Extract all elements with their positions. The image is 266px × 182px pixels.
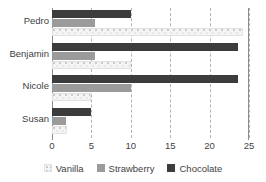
bar-group [52,75,249,105]
bar-vanilla-pedro [52,28,243,36]
legend-item-vanilla[interactable]: Vanilla [44,163,84,174]
bar-chocolate-susan [52,108,91,116]
legend-label: Chocolate [179,163,222,174]
bar-group [52,43,249,73]
y-axis-label-susan: Susan [0,113,49,124]
legend-item-chocolate[interactable]: Chocolate [167,163,222,174]
legend-swatch-vanilla-icon [44,164,52,172]
x-axis-tick-15: 15 [165,140,176,151]
y-axis-label-nicole: Nicole [0,80,49,91]
bar-chocolate-nicole [52,75,238,83]
chart-legend: VanillaStrawberryChocolate [0,160,266,176]
gridline-25 [249,8,250,138]
bar-chocolate-pedro [52,10,131,18]
x-axis-tick-20: 20 [204,140,215,151]
bar-group [52,10,249,40]
x-axis-tick-10: 10 [126,140,137,151]
bar-vanilla-benjamin [52,61,131,69]
legend-label: Strawberry [109,163,155,174]
bar-vanilla-susan [52,126,67,134]
legend-swatch-chocolate-icon [167,164,175,172]
bar-chart: PedroBenjaminNicoleSusan 0510152025 Vani… [0,0,266,182]
legend-swatch-strawberry-icon [97,164,105,172]
y-axis-category-labels: PedroBenjaminNicoleSusan [0,8,49,138]
bar-strawberry-benjamin [52,52,95,60]
y-axis-label-pedro: Pedro [0,15,49,26]
bar-strawberry-pedro [52,19,95,27]
legend-item-strawberry[interactable]: Strawberry [97,163,155,174]
bar-strawberry-nicole [52,84,131,92]
x-axis-tick-0: 0 [49,140,54,151]
y-axis-label-benjamin: Benjamin [0,48,49,59]
bar-strawberry-susan [52,117,66,125]
x-axis-tick-labels: 0510152025 [0,140,266,154]
bar-chocolate-benjamin [52,43,238,51]
legend-label: Vanilla [56,163,84,174]
plot-area [52,8,249,138]
bar-group [52,108,249,138]
bar-vanilla-nicole [52,93,91,101]
x-axis-tick-5: 5 [89,140,94,151]
x-axis-tick-25: 25 [244,140,255,151]
